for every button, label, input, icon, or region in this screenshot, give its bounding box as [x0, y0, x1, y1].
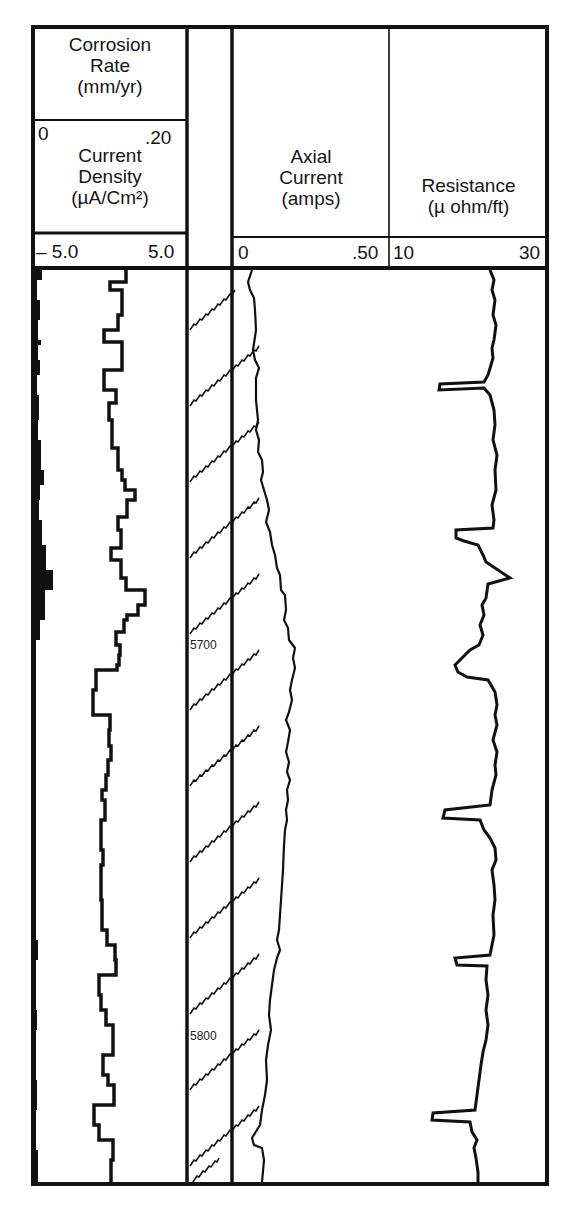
current-density-title-line2: Density: [35, 166, 185, 187]
current-density-min: – 5.0: [36, 242, 78, 262]
current-density-title-line1: Current: [35, 145, 185, 166]
resistance-max: 30: [519, 243, 540, 263]
resistance-title: Resistance (µ ohm/ft): [391, 175, 546, 217]
corrosion-rate-title-line2: Rate: [35, 55, 185, 76]
resistance-min: 10: [393, 243, 414, 263]
corrosion-rate-title-line1: Corrosion: [35, 34, 185, 55]
corrosion-rate-fill: [35, 270, 53, 1182]
current-density-curve: [93, 270, 145, 1182]
axial-current-max: .50: [352, 243, 378, 263]
axial-current-title-line2: Current: [234, 167, 388, 188]
axial-current-title: Axial Current (amps): [234, 146, 388, 209]
current-density-title: Current Density (µA/Cm²): [35, 145, 185, 208]
resistance-title-line1: Resistance: [391, 175, 546, 196]
axial-current-min: 0: [238, 243, 249, 263]
axial-current-curve: [248, 270, 295, 1182]
corrosion-rate-title: Corrosion Rate (mm/yr): [35, 34, 185, 97]
depth-track-hatching: [190, 290, 259, 1182]
depth-label-5700: 5700: [190, 639, 217, 652]
depth-label-5800: 5800: [190, 1030, 217, 1043]
corrosion-rate-units: (mm/yr): [35, 76, 185, 97]
axial-current-title-line1: Axial: [234, 146, 388, 167]
resistance-units: (µ ohm/ft): [391, 196, 546, 217]
current-density-units: (µA/Cm²): [35, 187, 185, 208]
axial-current-units: (amps): [234, 188, 388, 209]
current-density-max: 5.0: [148, 242, 174, 262]
resistance-curve: [432, 270, 510, 1182]
corrosion-rate-min: 0: [38, 124, 49, 144]
